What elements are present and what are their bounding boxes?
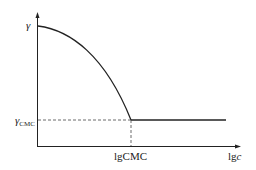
y-axis-label: γ <box>26 20 30 31</box>
y-axis-arrow-icon <box>36 12 40 18</box>
curve-decreasing <box>38 26 131 120</box>
x-axis-label-var: c <box>237 150 242 162</box>
chart-canvas <box>0 0 256 170</box>
y-tick-gamma-cmc: γCMC <box>15 115 35 128</box>
x-tick-lgcmc: lgCMC <box>114 151 147 162</box>
x-axis-label: lgc <box>228 151 241 162</box>
y-tick-sub: CMC <box>19 120 35 128</box>
x-axis-label-main: lg <box>228 150 237 162</box>
x-axis-arrow-icon <box>235 145 241 149</box>
